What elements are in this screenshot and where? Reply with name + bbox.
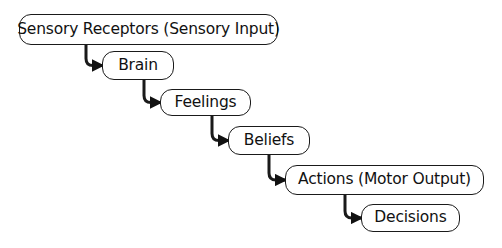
connector-arrow <box>86 44 103 66</box>
node-actions: Actions (Motor Output) <box>285 165 484 195</box>
connector-arrow <box>269 154 286 180</box>
node-feelings: Feelings <box>160 89 251 116</box>
node-sensory-receptors: Sensory Receptors (Sensory Input) <box>19 14 278 45</box>
node-label: Feelings <box>175 95 237 111</box>
connector-arrow <box>144 79 161 103</box>
node-label: Actions (Motor Output) <box>298 172 471 188</box>
connector-arrow <box>212 115 229 141</box>
flow-diagram: Sensory Receptors (Sensory Input) Brain … <box>0 0 502 248</box>
node-decisions: Decisions <box>361 204 460 232</box>
node-label: Sensory Receptors (Sensory Input) <box>17 22 280 38</box>
connector-arrow <box>345 194 362 218</box>
node-label: Decisions <box>374 210 446 226</box>
node-beliefs: Beliefs <box>228 126 310 155</box>
node-brain: Brain <box>102 51 174 80</box>
node-label: Brain <box>118 58 158 74</box>
node-label: Beliefs <box>244 133 294 149</box>
